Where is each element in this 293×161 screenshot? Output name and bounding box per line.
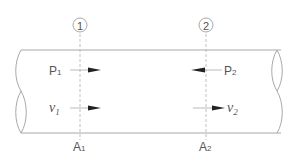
area-1-label: A1 — [73, 140, 86, 154]
pipe-right-break — [272, 50, 283, 133]
pressure-1-arrow-icon — [88, 68, 101, 73]
pressure-2-label: P2 — [224, 64, 237, 78]
velocity-2-arrow-icon — [212, 106, 225, 111]
section-1: 1 P1 v1 A1 — [49, 18, 101, 154]
velocity-1-arrow-icon — [88, 106, 101, 111]
pressure-2-arrow-icon — [191, 68, 205, 73]
velocity-2-label: v2 — [227, 100, 238, 117]
section-marker-1-label: 1 — [77, 20, 83, 32]
section-2: 2 P2 v2 A2 — [191, 18, 238, 154]
pipe-left-break — [16, 50, 27, 133]
area-2-label: A2 — [199, 140, 212, 154]
velocity-1-label: v1 — [49, 100, 60, 117]
pressure-1-label: P1 — [49, 64, 62, 78]
section-marker-2-label: 2 — [203, 20, 209, 32]
pipe-flow-diagram: 1 P1 v1 A1 2 P2 v2 A2 — [0, 0, 293, 161]
